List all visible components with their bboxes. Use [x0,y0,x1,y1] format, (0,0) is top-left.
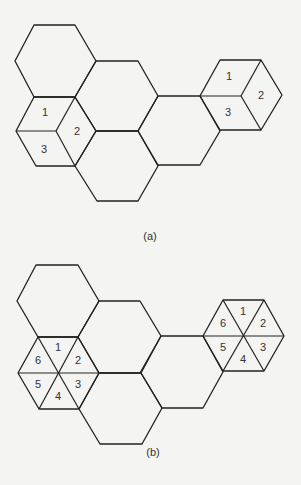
hex-cell-bottom-middle [75,131,158,201]
sector-label: 2 [258,89,264,101]
sector-label: 3 [225,106,231,118]
sector-label: 1 [240,305,246,317]
sector-label: 1 [226,70,232,82]
sector-divider [56,131,75,166]
sector-label: 2 [74,125,80,137]
sector-label: 4 [55,390,61,402]
sector-label: 3 [41,143,47,155]
panel-a: 1 2 3 1 2 3 (a) [15,25,282,242]
sector-label: 2 [75,354,81,366]
hex-cell-top-left [15,25,96,97]
hexagonal-cell-diagram: 1 2 3 1 2 3 (a) 1 2 3 4 5 6 1 2 3 4 5 6 [0,0,301,485]
sector-label: 3 [75,378,81,390]
panel-b: 1 2 3 4 5 6 1 2 3 4 5 6 (b) [17,265,284,458]
hex-cell-top-middle [75,61,158,131]
sector-divider [56,97,75,131]
sector-label: 2 [260,317,266,329]
panel-caption: (b) [146,446,159,458]
sector-label: 1 [55,341,61,353]
sector-label: 5 [35,378,41,390]
hex-cell-bottom-middle [79,373,162,444]
sector-label: 5 [220,341,226,353]
hex-cell-top-middle [78,301,161,373]
sector-label: 6 [35,354,41,366]
panel-caption: (a) [143,230,156,242]
sector-label: 3 [260,341,266,353]
sector-label: 4 [240,353,246,365]
sector-label: 6 [220,317,226,329]
hex-cell-top-left [17,265,99,337]
hex-cell-middle-right [141,336,223,408]
hex-cell-middle-right [138,96,220,165]
sector-divider [241,96,261,130]
sector-label: 1 [42,106,48,118]
